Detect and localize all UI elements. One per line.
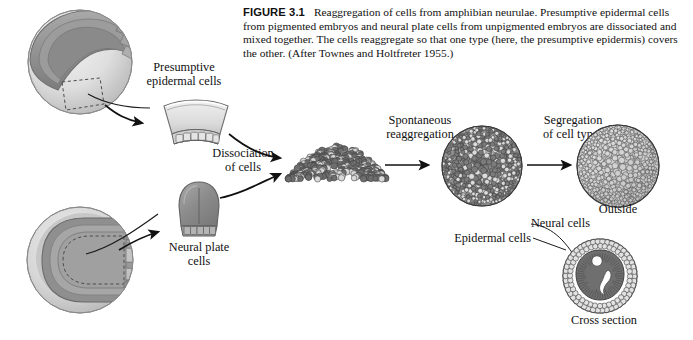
figure-caption-text: Reaggregation of cells from amphibian ne… (243, 6, 678, 59)
sorted-aggregate-sphere-illustration (575, 122, 661, 212)
figure-caption: FIGURE 3.1Reaggregation of cells from am… (243, 6, 689, 60)
neural-plate-explant-illustration (169, 180, 229, 242)
arrow-mixed-to-sorted-aggregate (526, 158, 580, 172)
label-neural-plate-line2: cells (147, 254, 251, 268)
arrow-mound-to-mixed-aggregate (384, 158, 438, 172)
cross-section-illustration (552, 238, 648, 316)
figure-number: FIGURE 3.1 (243, 6, 305, 18)
label-epidermal-cells: Epidermal cells (406, 231, 531, 245)
mixed-aggregate-sphere-illustration (440, 122, 524, 210)
label-neural-plate-cells: Neural plate cells (147, 240, 251, 268)
epidermal-explant-illustration (156, 96, 236, 150)
figure-page: FIGURE 3.1Reaggregation of cells from am… (0, 0, 693, 340)
label-outside: Outside (578, 202, 658, 216)
label-neural-plate-line1: Neural plate (147, 240, 251, 254)
label-presumptive-epidermal-line2: epidermal cells (124, 74, 244, 88)
label-cross-section: Cross section (558, 313, 650, 327)
label-presumptive-epidermal-line1: Presumptive (124, 60, 244, 74)
arrow-embryo-to-epidermal-explant (104, 104, 156, 132)
label-presumptive-epidermal-cells: Presumptive epidermal cells (124, 60, 244, 88)
